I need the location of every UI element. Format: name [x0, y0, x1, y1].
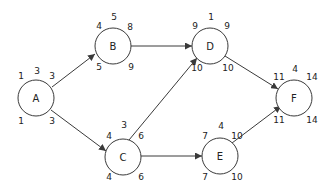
network-diagram: A 3 1 3 1 3 B 5 4 8 5 9 C 3 4 6 4 6 D 1 …	[0, 0, 334, 196]
node-d-label: D	[206, 41, 214, 52]
edge-a-b	[52, 54, 95, 87]
edge-c-d	[129, 58, 197, 140]
node-c-ef: 6	[138, 131, 144, 141]
node-f-es: 11	[273, 72, 284, 82]
node-e-ef: 10	[231, 131, 243, 141]
node-d-es: 9	[192, 21, 198, 31]
node-b: B 5 4 8 5 9	[95, 12, 134, 72]
node-f: F 4 11 14 11 14	[273, 64, 318, 125]
node-e-lf: 10	[231, 172, 243, 182]
node-a: A 3 1 3 1 3	[18, 66, 55, 126]
node-e-duration: 4	[218, 121, 224, 131]
node-a-duration: 3	[34, 66, 40, 76]
edges	[51, 46, 281, 156]
node-f-ls: 11	[273, 115, 284, 125]
node-c-label: C	[120, 152, 127, 163]
node-a-label: A	[33, 93, 40, 104]
node-c-ls: 4	[106, 172, 112, 182]
node-a-es: 1	[18, 71, 24, 81]
node-d-duration: 1	[208, 12, 214, 22]
node-f-label: F	[291, 93, 297, 104]
node-a-ef: 3	[49, 71, 55, 81]
node-f-lf: 14	[306, 115, 318, 125]
node-c-duration: 3	[121, 120, 127, 130]
node-c-lf: 6	[138, 172, 144, 182]
node-e: E 4 7 10 7 10	[202, 121, 243, 182]
node-a-ls: 1	[18, 116, 24, 126]
node-b-ls: 5	[96, 62, 102, 72]
edge-a-c	[51, 110, 106, 151]
node-a-lf: 3	[49, 116, 55, 126]
node-b-es: 4	[96, 21, 102, 31]
node-d: D 1 9 9 10 10	[191, 12, 234, 73]
node-d-ef: 9	[224, 21, 230, 31]
node-b-ef: 8	[127, 22, 133, 32]
node-e-label: E	[217, 151, 223, 162]
node-d-ls: 10	[191, 63, 203, 73]
node-b-duration: 5	[111, 12, 117, 22]
node-e-ls: 7	[202, 172, 208, 182]
node-b-lf: 9	[128, 62, 134, 72]
node-c-es: 4	[106, 131, 112, 141]
node-e-es: 7	[202, 131, 208, 141]
node-d-lf: 10	[222, 63, 234, 73]
node-b-label: B	[110, 41, 117, 52]
node-f-duration: 4	[292, 64, 298, 74]
node-f-ef: 14	[306, 72, 318, 82]
